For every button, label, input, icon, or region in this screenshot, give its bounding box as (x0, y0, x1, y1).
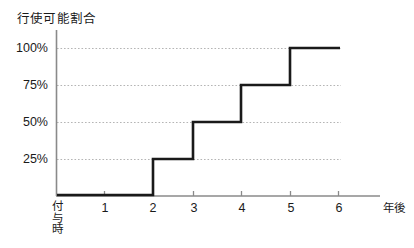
x-tick-label-2: 2 (141, 201, 165, 215)
y-axis-title: 行使可能割合 (17, 8, 96, 27)
step-chart: 行使可能割合 年後 100% 75% 50% 25% 付 与 時 1 2 3 4… (0, 0, 414, 248)
x-tick-label-grant: 付 与 時 (48, 201, 66, 236)
series-step-line (57, 48, 340, 195)
x-tick-label-3: 3 (182, 201, 206, 215)
y-tick-label-25: 25% (4, 152, 48, 166)
gridlines (57, 49, 341, 160)
y-tick-label-75: 75% (4, 78, 48, 92)
x-tick-label-4: 4 (230, 201, 254, 215)
x-tick-label-6: 6 (327, 201, 351, 215)
y-tick-label-50: 50% (4, 115, 48, 129)
x-tick-label-1: 1 (93, 201, 117, 215)
y-tick-label-100: 100% (4, 41, 48, 55)
x-axis-title: 年後 (383, 199, 405, 215)
x-tick-label-5: 5 (279, 201, 303, 215)
x-tick-label-grant-char-1: 付 (48, 201, 66, 213)
x-tick-label-grant-char-3: 時 (48, 224, 66, 236)
